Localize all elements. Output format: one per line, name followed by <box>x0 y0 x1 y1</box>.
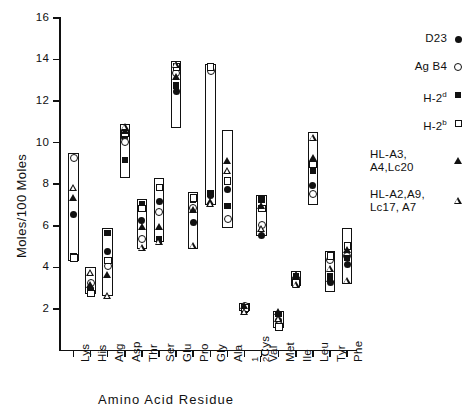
data-point-open-circle <box>138 235 146 243</box>
data-point-open-square <box>327 252 335 260</box>
data-point-filled-triangle <box>189 206 197 213</box>
data-point-open-triangle <box>69 184 77 191</box>
legend-item: H-2b <box>370 117 466 132</box>
y-tick-label: 14 <box>25 52 49 64</box>
x-tick-mark <box>141 350 143 357</box>
data-point-open-circle <box>121 138 129 146</box>
data-point-filled-circle <box>190 219 197 226</box>
legend-item: HL-A2,A9,Lc17, A7 <box>370 188 466 214</box>
data-point-open-triangle <box>326 265 334 272</box>
x-tick-label: Tyr <box>335 345 347 362</box>
x-tick-label: Glu <box>181 343 193 362</box>
data-point-open-square <box>156 184 164 192</box>
x-tick-mark <box>329 350 331 357</box>
legend-marker-filled-triangle <box>452 155 466 167</box>
x-tick-mark <box>261 350 263 357</box>
x-tick-mark <box>73 350 75 357</box>
data-point-filled-triangle <box>326 275 334 282</box>
data-point-open-square <box>275 323 283 331</box>
data-point-open-square <box>224 177 232 185</box>
data-point-open-square <box>207 63 215 71</box>
range-column <box>137 199 148 249</box>
data-point-open-triangle <box>223 167 231 174</box>
data-point-open-circle <box>224 215 232 223</box>
data-point-open-square <box>190 194 198 202</box>
data-point-filled-square <box>173 82 180 89</box>
x-tick-mark <box>210 350 212 357</box>
range-column <box>222 130 233 228</box>
data-point-open-triangle <box>240 308 248 315</box>
y-tick-mark <box>53 308 60 310</box>
x-tick-label: Ile <box>301 349 313 362</box>
data-point-filled-square <box>104 230 111 237</box>
data-point-filled-square <box>207 190 214 197</box>
x-tick-mark <box>295 350 297 357</box>
data-point-filled-triangle <box>86 281 94 288</box>
range-column <box>102 228 113 297</box>
data-point-open-triangle <box>274 315 282 322</box>
data-point-open-triangle <box>86 269 94 276</box>
legend-item: D23 <box>370 33 466 45</box>
y-tick-mark <box>53 183 60 185</box>
range-column <box>171 61 182 128</box>
data-point-open-triangle <box>155 238 163 245</box>
x-tick-label: Phe <box>352 341 364 362</box>
data-point-filled-triangle <box>172 73 180 80</box>
data-point-filled-triangle <box>155 223 163 230</box>
data-point-open-circle <box>70 154 78 162</box>
legend-label: Ag B4 <box>370 61 447 73</box>
range-column <box>325 251 336 293</box>
data-point-open-square <box>87 290 95 298</box>
x-tick-label: Leu <box>318 342 330 362</box>
data-point-open-triangle <box>189 242 197 249</box>
data-point-filled-circle <box>104 248 111 255</box>
range-column <box>256 195 267 237</box>
data-point-filled-square <box>122 157 129 164</box>
legend-marker-filled-square <box>452 89 466 101</box>
x-tick-mark <box>158 350 160 357</box>
y-tick-mark <box>53 17 60 19</box>
data-point-filled-square <box>224 203 231 210</box>
x-tick-mark <box>90 350 92 357</box>
x-tick-mark <box>192 350 194 357</box>
legend-item: H-2d <box>370 89 466 104</box>
data-point-open-square <box>138 205 146 213</box>
range-column <box>273 311 284 328</box>
legend-label: HL-A3,A4,Lc20 <box>370 148 447 174</box>
y-tick-label: 2 <box>25 302 49 314</box>
y-tick-label: 16 <box>25 11 49 23</box>
x-tick-label: Ala <box>232 344 244 362</box>
data-point-filled-triangle <box>103 271 111 278</box>
data-point-open-triangle <box>121 123 129 130</box>
data-point-filled-circle <box>309 182 316 189</box>
x-tick-mark <box>244 350 246 357</box>
data-point-filled-circle <box>173 88 180 95</box>
data-point-filled-triangle <box>138 223 146 230</box>
data-point-filled-circle <box>258 232 265 239</box>
x-tick-mark <box>107 350 109 357</box>
y-tick-mark <box>53 225 60 227</box>
y-axis-label: Moles/100 Moles <box>14 154 29 258</box>
data-point-filled-circle <box>156 198 163 205</box>
data-point-open-square <box>70 254 78 262</box>
range-column <box>291 271 302 286</box>
legend-item: Ag B4 <box>370 61 466 73</box>
data-point-open-triangle <box>257 225 265 232</box>
data-point-filled-square <box>344 255 351 262</box>
x-tick-label: Thr <box>147 344 159 362</box>
legend-label: D23 <box>370 33 447 45</box>
data-point-filled-triangle <box>257 202 265 209</box>
range-column <box>342 228 353 284</box>
x-tick-label: Val <box>267 345 279 362</box>
chart-canvas: 246810121416 LysHisArgAspThrSerGluProGly… <box>0 0 466 415</box>
range-column <box>205 64 216 205</box>
legend-label: H-2b <box>370 117 447 132</box>
x-tick-label: Met <box>284 342 296 362</box>
legend-marker-open-circle <box>452 61 466 73</box>
data-point-open-circle <box>309 190 317 198</box>
x-tick-label: Arg <box>113 343 125 362</box>
y-tick-mark <box>53 142 60 144</box>
data-point-open-circle <box>155 208 163 216</box>
data-point-filled-triangle <box>343 246 351 253</box>
y-tick-mark <box>53 59 60 61</box>
